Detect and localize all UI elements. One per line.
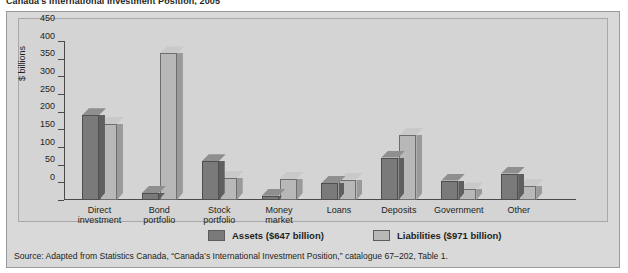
bar-top-face bbox=[160, 46, 184, 53]
bar-front-face bbox=[160, 53, 177, 200]
figure-title: Canada's International Investment Positi… bbox=[6, 0, 220, 5]
y-axis-tick bbox=[58, 94, 64, 95]
bar-front-face bbox=[202, 161, 219, 200]
bar-top-face bbox=[202, 154, 226, 161]
bar-front-face bbox=[321, 183, 338, 200]
y-axis-tick-label: 50 bbox=[15, 154, 55, 164]
bar-side-face bbox=[536, 186, 542, 200]
bar-front-face bbox=[501, 174, 518, 201]
y-axis-tick-label: 200 bbox=[15, 101, 55, 111]
y-axis-tick-label: 100 bbox=[15, 137, 55, 147]
legend-swatch bbox=[208, 230, 225, 241]
bar-side-face bbox=[416, 135, 422, 200]
bar-assets bbox=[142, 193, 159, 200]
y-axis-tick bbox=[58, 59, 64, 60]
bar-front-face bbox=[82, 115, 99, 200]
y-axis-tick bbox=[58, 147, 64, 148]
bar-assets bbox=[202, 161, 219, 200]
x-axis-label: Other bbox=[479, 205, 559, 215]
y-axis-tick bbox=[58, 129, 64, 130]
bar-top-face bbox=[501, 167, 525, 174]
bar-side-face bbox=[476, 189, 482, 200]
y-axis-tick-label: 400 bbox=[15, 31, 55, 41]
y-axis-tick-labels: 050100150200250300350400450 bbox=[15, 19, 55, 178]
y-axis-title: $ billions bbox=[17, 46, 27, 81]
bar-side-face bbox=[398, 158, 404, 200]
bar-front-face bbox=[142, 193, 159, 200]
y-axis-tick-label: 150 bbox=[15, 119, 55, 129]
y-axis-tick bbox=[58, 182, 64, 183]
chart-legend: Assets ($647 billion)Liabilities ($971 b… bbox=[18, 228, 608, 244]
legend-item[interactable]: Assets ($647 billion) bbox=[208, 228, 324, 242]
y-axis-tick-label: 250 bbox=[15, 84, 55, 94]
bar-side-face bbox=[117, 124, 123, 200]
bar-front-face bbox=[441, 181, 458, 200]
bar-assets bbox=[321, 183, 338, 200]
y-axis-tick-label: 0 bbox=[15, 172, 55, 182]
plot-frame: 050100150200250300350400450 $ billions D… bbox=[18, 18, 608, 222]
bar-assets bbox=[262, 196, 279, 200]
bar-assets bbox=[441, 181, 458, 200]
bar-side-face bbox=[177, 53, 183, 200]
bar-side-face bbox=[237, 178, 243, 200]
bar-assets bbox=[381, 158, 398, 200]
bar-top-face bbox=[441, 174, 465, 181]
legend-label: Assets ($647 billion) bbox=[232, 230, 324, 241]
bar-front-face bbox=[381, 158, 398, 200]
y-axis-tick bbox=[58, 41, 64, 42]
y-axis-tick-label: 450 bbox=[15, 13, 55, 23]
bar-top-face bbox=[399, 128, 423, 135]
legend-item[interactable]: Liabilities ($971 billion) bbox=[373, 228, 502, 242]
legend-label: Liabilities ($971 billion) bbox=[397, 230, 502, 241]
y-axis-tick bbox=[58, 112, 64, 113]
legend-swatch bbox=[373, 230, 390, 241]
bar-assets bbox=[82, 115, 99, 200]
bar-top-face bbox=[339, 173, 363, 180]
y-axis-tick bbox=[58, 76, 64, 77]
bar-side-face bbox=[99, 115, 105, 200]
bar-side-face bbox=[297, 179, 303, 200]
bar-top-face bbox=[280, 172, 304, 179]
bar-assets bbox=[501, 174, 518, 201]
bar-liabilities bbox=[160, 53, 177, 200]
bar-top-face bbox=[82, 108, 106, 115]
y-axis-tick bbox=[58, 200, 64, 201]
plot-area bbox=[64, 41, 576, 200]
bar-side-face bbox=[356, 180, 362, 200]
y-axis-tick bbox=[58, 165, 64, 166]
bar-front-face bbox=[262, 196, 279, 200]
chart-panel: 050100150200250300350400450 $ billions D… bbox=[6, 11, 620, 268]
source-note: Source: Adapted from Statistics Canada, … bbox=[14, 251, 614, 261]
